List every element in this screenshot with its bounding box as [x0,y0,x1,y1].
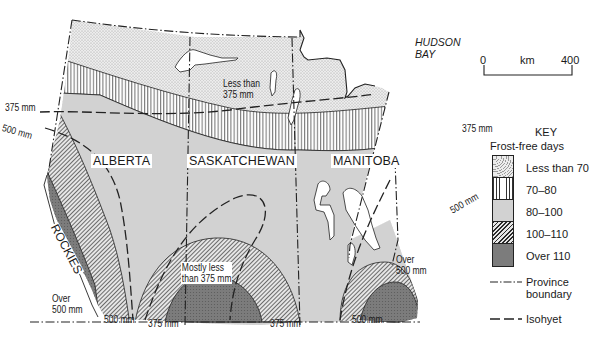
legend-key-label: KEY [535,126,557,138]
legend-label-70-80: 70–80 [526,184,557,196]
isohyet-label-375-bottom-2: 375 mm [270,318,301,329]
legend-label-less-than-70: Less than 70 [526,162,589,174]
legend-label-100-110: 100–110 [526,228,568,240]
legend-swatch-70-80 [492,177,514,200]
note-line: 375 mm [223,89,260,100]
province-label-manitoba: MANITOBA [331,154,402,168]
note-less-than-375: Less than 375 mm [223,78,260,100]
scale-start: 0 [480,55,486,66]
isohyet-label-500-bottom-1: 500 mm [104,314,135,325]
legend-swatch-less-than-70 [492,155,514,178]
hudson-bay-line-1: HUDSON [415,36,461,48]
legend-line-samples [488,277,524,327]
legend-label-over-110: Over 110 [526,250,570,262]
note-over-500-east: Over 500 mm [396,254,427,276]
note-mostly-less: Mostly less than 375 mm [181,262,232,284]
isohyet-label-375-east: 375 mm [462,123,493,134]
province-label-saskatchewan: SASKATCHEWAN [187,154,297,168]
legend-label-80-100: 80–100 [526,206,563,218]
note-line: 500 mm [52,304,83,315]
legend-swatch-over-110 [492,243,514,267]
scale-unit: km [520,55,535,66]
note-line: Over [396,254,427,265]
legend-title: Frost-free days [490,140,564,152]
note-line: Over [52,293,83,304]
legend-label-isohyet: Isohyet [526,313,561,325]
isohyet-label-375-bottom-1: 375 mm [148,318,179,329]
note-line: 500 mm [396,265,427,276]
province-label-alberta: ALBERTA [91,154,152,168]
legend-swatch-100-110 [492,221,514,244]
note-line: Mostly less [182,262,232,273]
hudson-bay-label: HUDSON BAY [415,36,461,60]
legend-swatch-80-100 [492,199,514,222]
isohyet-label-375-west: 375 mm [5,102,36,113]
legend-line-text: boundary [526,288,572,300]
isohyet-label-500-bottom-2: 500 mm [352,314,383,325]
hudson-bay-line-2: BAY [415,48,461,60]
note-line: Less than [223,78,260,89]
scale-bar [484,65,572,75]
scale-end: 400 [561,55,579,66]
legend-label-province-boundary: Province boundary [526,276,572,300]
note-line: than 375 mm [182,273,232,284]
legend-line-text: Province [526,276,572,288]
note-over-500-sw: Over 500 mm [52,293,83,315]
